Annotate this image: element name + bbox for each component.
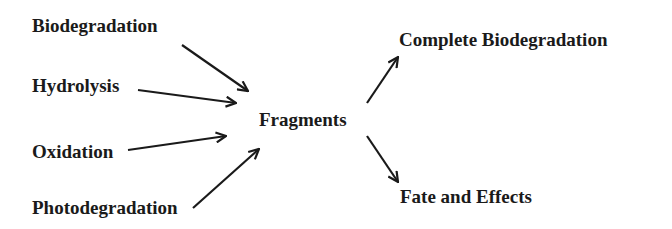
outcome-complete-biodegradation: Complete Biodegradation — [399, 29, 607, 51]
arrow-photodegradation-to-fragments — [193, 149, 259, 208]
arrow-fragments-to-fate-and-effects — [367, 136, 398, 182]
arrow-hydrolysis-to-fragments — [138, 90, 236, 103]
center-fragments: Fragments — [259, 109, 347, 131]
source-oxidation: Oxidation — [32, 141, 113, 163]
source-photodegradation: Photodegradation — [32, 197, 178, 219]
degradation-diagram: Biodegradation Hydrolysis Oxidation Phot… — [0, 0, 672, 229]
source-biodegradation: Biodegradation — [32, 15, 158, 37]
outcome-fate-and-effects: Fate and Effects — [400, 186, 532, 208]
arrow-fragments-to-complete-biodegradation — [367, 57, 398, 103]
arrow-biodegradation-to-fragments — [182, 45, 248, 91]
arrow-oxidation-to-fragments — [128, 136, 226, 150]
source-hydrolysis: Hydrolysis — [32, 75, 119, 97]
